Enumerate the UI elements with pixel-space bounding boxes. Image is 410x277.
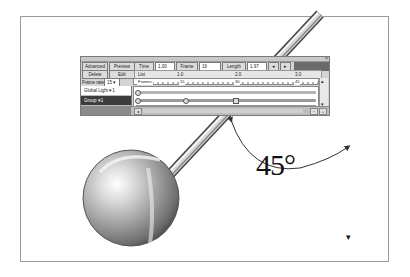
frame-rate-label: Frame rate bbox=[82, 80, 104, 85]
keyframe[interactable] bbox=[233, 98, 239, 104]
keyframe-tracks[interactable] bbox=[133, 86, 319, 107]
ruler-mark-2s: 2.0 bbox=[235, 72, 241, 77]
keyframe[interactable] bbox=[183, 98, 189, 104]
layers-list: Global Light ▾1 Group ▾1 bbox=[81, 86, 132, 107]
timeline-window: × Advanced Preview Time 1.00 Frame 16 Le… bbox=[80, 56, 330, 116]
chevron-down-icon: ▾ bbox=[113, 80, 116, 85]
angle-label: 45° bbox=[256, 148, 295, 182]
ruler-mark-45: 45 bbox=[294, 79, 300, 85]
keyframe[interactable] bbox=[135, 98, 141, 104]
ruler-mark-1s: 1.0 bbox=[177, 72, 183, 77]
ruler-mark-3s: 3.0 bbox=[295, 72, 301, 77]
keyframe[interactable] bbox=[135, 90, 141, 96]
vertical-scrollbar[interactable]: ▴ ▾ bbox=[319, 78, 328, 107]
close-icon[interactable]: × bbox=[325, 55, 328, 61]
layers-footer bbox=[81, 107, 131, 115]
pendulum-ball bbox=[83, 150, 179, 246]
timeline-bottom-bar: ◂ − + bbox=[81, 106, 329, 115]
ruler-mark-15: 15 bbox=[179, 79, 185, 85]
horizontal-scrollbar[interactable] bbox=[143, 109, 303, 113]
ruler-mark-30: 30 bbox=[234, 79, 240, 85]
scroll-up-icon[interactable]: ▴ bbox=[321, 78, 324, 84]
zoom-in-icon[interactable]: + bbox=[319, 108, 327, 115]
track-global-light[interactable] bbox=[136, 91, 316, 94]
frames-label: Frames bbox=[137, 79, 153, 85]
cursor-icon: ▾ bbox=[346, 232, 351, 242]
zoom-out-icon[interactable]: − bbox=[310, 108, 318, 115]
frames-ruler[interactable]: Frames 15 30 45 bbox=[133, 78, 319, 85]
track-group[interactable] bbox=[136, 99, 316, 102]
list-label: List bbox=[138, 72, 145, 77]
layer-global-light[interactable]: Global Light ▾1 bbox=[81, 86, 131, 96]
layer-group[interactable]: Group ▾1 bbox=[81, 96, 131, 106]
scroll-left-icon[interactable]: ◂ bbox=[134, 108, 142, 115]
